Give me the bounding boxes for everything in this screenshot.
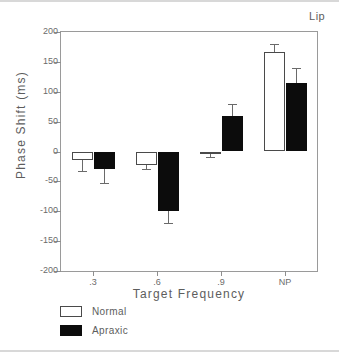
error-bar-stem xyxy=(232,104,233,117)
bar-normal-p3 xyxy=(72,152,93,160)
y-axis-title: Phase Shift (ms) xyxy=(14,55,28,195)
x-axis-tick-mark xyxy=(221,271,222,276)
figure-panel: Lip 200150100500-50-100-150-200.3.6.9NP … xyxy=(0,0,339,352)
y-axis-tick-label: 200 xyxy=(43,26,58,36)
bar-apraxic-NP xyxy=(286,83,307,152)
x-axis-tick-label: NP xyxy=(279,277,292,287)
x-axis-tick-label: .9 xyxy=(217,277,225,287)
legend-label: Normal xyxy=(92,306,127,317)
x-axis-tick-label: .6 xyxy=(153,277,161,287)
legend-item-apraxic: Apraxic xyxy=(60,322,128,338)
error-bar-stem xyxy=(82,160,83,171)
error-bar-cap xyxy=(78,171,87,172)
bar-normal-NP xyxy=(264,52,285,151)
error-bar-cap xyxy=(292,68,301,69)
chart-legend: NormalApraxic xyxy=(60,303,128,341)
error-bar-cap xyxy=(206,157,215,158)
bar-apraxic-p9 xyxy=(222,116,243,151)
y-axis-tick-label: -100 xyxy=(40,205,58,215)
error-bar-stem xyxy=(104,169,105,183)
error-bar-stem xyxy=(296,68,297,82)
bar-apraxic-p3 xyxy=(94,152,115,169)
x-axis-tick-mark xyxy=(157,271,158,276)
error-bar-cap xyxy=(270,44,279,45)
y-axis-tick-label: 100 xyxy=(43,86,58,96)
figure-top-rule xyxy=(0,0,339,2)
error-bar-stem xyxy=(274,44,275,52)
error-bar-cap xyxy=(100,183,109,184)
plot-frame: 200150100500-50-100-150-200.3.6.9NP xyxy=(60,31,318,272)
legend-item-normal: Normal xyxy=(60,303,128,319)
y-axis-tick-label: 0 xyxy=(53,146,58,156)
y-axis-tick-label: -50 xyxy=(45,175,58,185)
x-axis-tick-label: .3 xyxy=(89,277,97,287)
error-bar-stem xyxy=(168,211,169,223)
y-axis-tick-label: -200 xyxy=(40,265,58,275)
x-axis-title: Target Frequency xyxy=(60,287,318,301)
bar-normal-p6 xyxy=(136,152,157,165)
y-axis-tick-label: 50 xyxy=(48,116,58,126)
legend-swatch-apraxic xyxy=(60,325,82,336)
legend-label: Apraxic xyxy=(92,325,128,336)
plot-area: 200150100500-50-100-150-200.3.6.9NP xyxy=(61,32,317,271)
x-axis-tick-mark xyxy=(93,271,94,276)
error-bar-cap xyxy=(228,104,237,105)
x-axis-tick-mark xyxy=(285,271,286,276)
bar-apraxic-p6 xyxy=(158,152,179,212)
y-axis-tick-label: -150 xyxy=(40,235,58,245)
error-bar-cap xyxy=(142,169,151,170)
error-bar-cap xyxy=(164,223,173,224)
chart-title: Lip xyxy=(309,10,325,22)
legend-swatch-normal xyxy=(60,306,82,317)
y-axis-tick-label: 150 xyxy=(43,56,58,66)
